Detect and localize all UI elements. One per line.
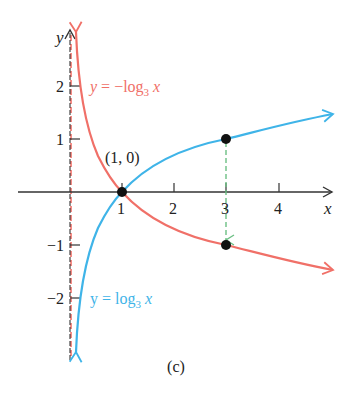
point-label: (1, 0)	[105, 149, 140, 167]
neg-log3-label: y = −log3 x	[88, 78, 160, 98]
y-axis-label: y	[54, 28, 64, 47]
x-axis-label: x	[323, 199, 332, 218]
y-tick-label: −1	[47, 237, 64, 254]
figure-caption: (c)	[167, 358, 185, 376]
x-tick-label: 4	[274, 200, 282, 217]
x-tick-label: 1	[117, 200, 125, 217]
x-ticks	[122, 183, 279, 192]
x-tick-label: 2	[169, 200, 177, 217]
neg-log3-label-var: x	[149, 78, 160, 95]
log3-label: y = log3 x	[90, 290, 152, 310]
log3-label-var: x	[141, 290, 152, 307]
y-tick-label: 2	[56, 78, 64, 95]
point-3-1	[221, 134, 231, 144]
log3-label-text: y = log	[90, 290, 135, 308]
log-graph: y x 1 2 3 4 2 1 −1 −2 (1, 0) y = −log3 x…	[0, 0, 352, 402]
neg-log3-label-text: = −log	[97, 78, 144, 96]
y-tick-label: 1	[56, 131, 64, 148]
point-3-neg1	[221, 240, 231, 250]
y-tick-label: −2	[47, 290, 64, 307]
point-1-0	[117, 187, 127, 197]
x-tick-label: 3	[221, 200, 229, 217]
